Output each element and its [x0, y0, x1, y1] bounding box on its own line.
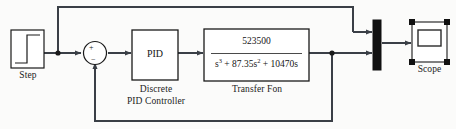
transfer-function-denominator: s3 + 87.35s2 + 10470s — [204, 59, 309, 69]
scope-block-label: Scope — [407, 64, 452, 75]
pid-block-label: Discrete PID Controller — [110, 84, 202, 107]
step-block-label: Step — [7, 70, 49, 81]
sum-plus-sign: + — [89, 44, 94, 52]
transfer-function-numerator: 523500 — [204, 36, 309, 46]
sum-minus-sign: − — [91, 56, 96, 64]
scope-block[interactable] — [409, 19, 450, 65]
pid-block-text: PID — [132, 48, 178, 59]
output-branch-junction-dot — [329, 50, 334, 55]
step-branch-junction-dot — [55, 50, 60, 55]
transfer-function-label: Transfer Fon — [210, 84, 304, 95]
step-block[interactable] — [11, 30, 44, 68]
block-diagram-canvas: + − PID 523500 s3 + 87.35s2 + 10470s Ste… — [0, 0, 456, 129]
scope-screen-icon — [418, 30, 441, 46]
mux-block[interactable] — [373, 20, 381, 70]
